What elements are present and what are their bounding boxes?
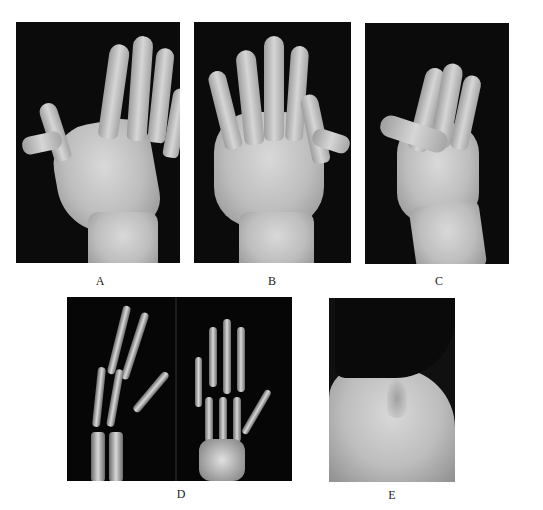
bone bbox=[223, 319, 231, 394]
bone bbox=[195, 357, 202, 407]
xray-divider bbox=[175, 297, 177, 481]
panel-b-image bbox=[194, 22, 351, 263]
panel-e-image bbox=[329, 298, 455, 482]
bone bbox=[109, 432, 123, 481]
carpal-bones bbox=[199, 439, 245, 481]
bone bbox=[241, 389, 272, 436]
bone bbox=[237, 327, 245, 392]
bone bbox=[91, 432, 105, 481]
finger bbox=[264, 36, 284, 141]
bone bbox=[92, 367, 106, 428]
panel-b-label: B bbox=[268, 274, 276, 289]
bone bbox=[132, 370, 170, 413]
wrist-shape bbox=[239, 212, 314, 263]
bone bbox=[209, 327, 217, 387]
panel-c-label: C bbox=[435, 274, 443, 289]
panel-d-xray bbox=[67, 297, 292, 481]
bone bbox=[233, 397, 241, 442]
wrist-shape bbox=[408, 198, 487, 264]
ear-shape bbox=[387, 378, 407, 418]
panel-a-image bbox=[16, 22, 180, 263]
bone bbox=[106, 369, 124, 428]
wrist-shape bbox=[88, 212, 158, 263]
panel-a-label: A bbox=[96, 274, 105, 289]
bone bbox=[205, 397, 213, 442]
panel-c-image bbox=[365, 23, 509, 264]
bone bbox=[219, 397, 227, 442]
panel-d-label: D bbox=[177, 487, 186, 502]
hair-shape bbox=[335, 298, 455, 378]
panel-e-label: E bbox=[388, 488, 395, 503]
